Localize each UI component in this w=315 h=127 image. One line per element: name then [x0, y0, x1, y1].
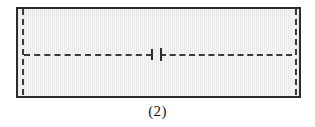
right-vertical-centerline	[295, 9, 297, 95]
left-vertical-centerline	[22, 9, 24, 95]
figure-caption: (2)	[0, 101, 315, 121]
right-edge	[299, 7, 301, 98]
part-body-fill	[17, 8, 300, 97]
left-edge	[16, 7, 18, 98]
horizontal-centerline-left-segment	[24, 54, 152, 56]
break-tick-right	[160, 48, 162, 61]
break-tick-left	[151, 49, 153, 60]
top-edge	[16, 7, 301, 9]
technical-drawing-figure: (2)	[0, 0, 315, 127]
horizontal-centerline-right-segment	[160, 54, 292, 56]
bottom-edge	[16, 96, 301, 98]
